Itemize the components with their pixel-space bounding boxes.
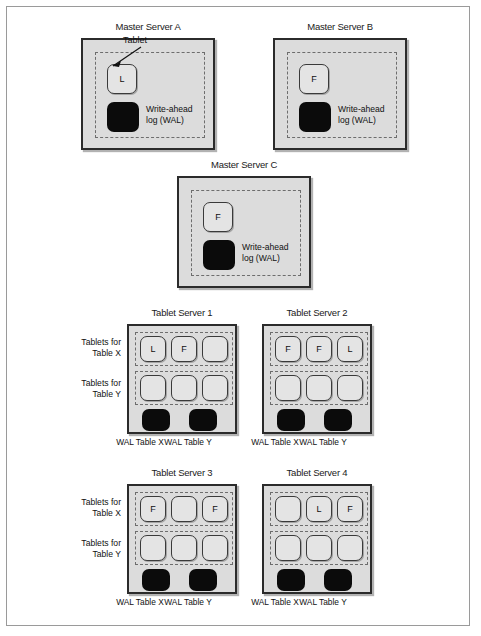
label-line2: Table X bbox=[69, 508, 121, 519]
tablet-server-2-wal-table-x bbox=[277, 409, 305, 431]
tablet-server-2-table-y-tablet-1[interactable] bbox=[275, 375, 301, 401]
tablet-server-2-wal-table-y-label: WAL Table Y bbox=[292, 437, 354, 447]
tablet-server-4: L F bbox=[262, 484, 372, 594]
figure-frame: Master Server A L Write-ahead log (WAL) … bbox=[6, 6, 470, 626]
tablet-server-1-title: Tablet Server 1 bbox=[127, 307, 237, 318]
tablet-role-label: L bbox=[316, 504, 321, 514]
wal-caption-line1: Write-ahead bbox=[338, 104, 385, 115]
tablet-server-2-table-y-tablet-2[interactable] bbox=[306, 375, 332, 401]
tablet-server-4-table-x-tablet-1[interactable] bbox=[275, 496, 301, 522]
tablet-server-2-title: Tablet Server 2 bbox=[262, 307, 372, 318]
tablet-server-4-table-x-tablet-3[interactable]: F bbox=[337, 496, 363, 522]
tablet-server-4-wal-table-y bbox=[324, 569, 352, 591]
master-server-a-wal-caption: Write-ahead log (WAL) bbox=[146, 104, 193, 126]
tablet-role-label: L bbox=[119, 74, 124, 84]
tablet-role-label: F bbox=[311, 74, 317, 84]
tablet-server-3-table-y-tablet-1[interactable] bbox=[140, 535, 166, 561]
tablet-server-3-wal-table-y-label: WAL Table Y bbox=[157, 597, 219, 607]
tablet-server-3-table-y-label: Tablets for Table Y bbox=[69, 538, 121, 559]
tablet-server-2-table-x-tablet-3[interactable]: L bbox=[337, 336, 363, 362]
tablet-role-label: L bbox=[347, 344, 352, 354]
master-server-b-wal-caption: Write-ahead log (WAL) bbox=[338, 104, 385, 126]
label-line1: Tablets for bbox=[69, 497, 121, 508]
wal-caption-line2: log (WAL) bbox=[338, 115, 385, 126]
tablet-server-4-table-y-tablet-3[interactable] bbox=[337, 535, 363, 561]
tablet-server-3-table-y-tablet-2[interactable] bbox=[171, 535, 197, 561]
tablet-server-3-table-x-tablet-3[interactable]: F bbox=[202, 496, 228, 522]
master-server-c-title: Master Server C bbox=[177, 159, 311, 170]
tablet-role-label: F bbox=[215, 212, 221, 222]
master-server-b-tablet[interactable]: F bbox=[299, 64, 329, 94]
label-line2: Table Y bbox=[69, 549, 121, 560]
tablet-server-2: F F L bbox=[262, 324, 372, 434]
tablet-role-label: F bbox=[316, 344, 322, 354]
wal-caption-line1: Write-ahead bbox=[146, 104, 193, 115]
tablet-role-label: F bbox=[285, 344, 291, 354]
master-server-b-wal bbox=[299, 102, 331, 132]
label-line2: Table X bbox=[69, 348, 121, 359]
label-line1: Tablets for bbox=[69, 538, 121, 549]
tablet-server-1-table-x-tablet-3[interactable] bbox=[202, 336, 228, 362]
tablet-role-label: F bbox=[347, 504, 353, 514]
master-server-b-title: Master Server B bbox=[273, 21, 407, 32]
tablet-callout-label: Tablet bbox=[123, 35, 147, 45]
tablet-role-label: F bbox=[150, 504, 156, 514]
tablet-server-1-table-y-tablet-3[interactable] bbox=[202, 375, 228, 401]
tablet-server-1-table-y-tablet-2[interactable] bbox=[171, 375, 197, 401]
tablet-server-4-table-y-tablet-1[interactable] bbox=[275, 535, 301, 561]
tablet-server-3-table-x-tablet-1[interactable]: F bbox=[140, 496, 166, 522]
tablet-server-1-table-x-tablet-2[interactable]: F bbox=[171, 336, 197, 362]
tablet-server-3: F F bbox=[127, 484, 237, 594]
master-server-c-wal bbox=[203, 240, 235, 270]
tablet-server-3-table-x-tablet-2[interactable] bbox=[171, 496, 197, 522]
tablet-server-2-table-x-tablet-1[interactable]: F bbox=[275, 336, 301, 362]
wal-caption-line2: log (WAL) bbox=[146, 115, 193, 126]
tablet-server-1-wal-table-y-label: WAL Table Y bbox=[157, 437, 219, 447]
tablet-server-4-wal-table-y-label: WAL Table Y bbox=[292, 597, 354, 607]
tablet-server-2-wal-table-y bbox=[324, 409, 352, 431]
master-server-a-wal bbox=[107, 102, 139, 132]
tablet-server-4-table-y-tablet-2[interactable] bbox=[306, 535, 332, 561]
tablet-server-3-wal-table-x bbox=[142, 569, 170, 591]
tablet-role-label: F bbox=[212, 504, 218, 514]
tablet-server-1-wal-table-y bbox=[189, 409, 217, 431]
label-line1: Tablets for bbox=[69, 378, 121, 389]
master-server-c: F Write-ahead log (WAL) bbox=[177, 176, 311, 288]
wal-caption-line2: log (WAL) bbox=[242, 253, 289, 264]
master-server-c-tablet[interactable]: F bbox=[203, 202, 233, 232]
master-server-b: F Write-ahead log (WAL) bbox=[273, 38, 407, 150]
tablet-server-1-wal-table-x bbox=[142, 409, 170, 431]
tablet-server-3-table-y-tablet-3[interactable] bbox=[202, 535, 228, 561]
tablet-server-1-table-y-label: Tablets for Table Y bbox=[69, 378, 121, 399]
master-server-c-wal-caption: Write-ahead log (WAL) bbox=[242, 242, 289, 264]
tablet-server-4-wal-table-x bbox=[277, 569, 305, 591]
tablet-server-1-table-y-tablet-1[interactable] bbox=[140, 375, 166, 401]
tablet-server-4-table-x-tablet-2[interactable]: L bbox=[306, 496, 332, 522]
tablet-server-2-table-y-tablet-3[interactable] bbox=[337, 375, 363, 401]
tablet-server-3-wal-table-y bbox=[189, 569, 217, 591]
label-line1: Tablets for bbox=[69, 337, 121, 348]
tablet-callout-arrow-icon bbox=[103, 45, 149, 71]
label-line2: Table Y bbox=[69, 389, 121, 400]
tablet-server-1: L F bbox=[127, 324, 237, 434]
wal-caption-line1: Write-ahead bbox=[242, 242, 289, 253]
tablet-role-label: L bbox=[150, 344, 155, 354]
tablet-server-1-table-x-label: Tablets for Table X bbox=[69, 337, 121, 358]
tablet-server-3-table-x-label: Tablets for Table X bbox=[69, 497, 121, 518]
tablet-server-4-title: Tablet Server 4 bbox=[262, 467, 372, 478]
master-server-a-title: Master Server A bbox=[81, 21, 215, 32]
tablet-server-1-table-x-tablet-1[interactable]: L bbox=[140, 336, 166, 362]
tablet-role-label: F bbox=[181, 344, 187, 354]
tablet-server-3-title: Tablet Server 3 bbox=[127, 467, 237, 478]
tablet-server-2-table-x-tablet-2[interactable]: F bbox=[306, 336, 332, 362]
figure-page: Master Server A L Write-ahead log (WAL) … bbox=[0, 0, 481, 636]
